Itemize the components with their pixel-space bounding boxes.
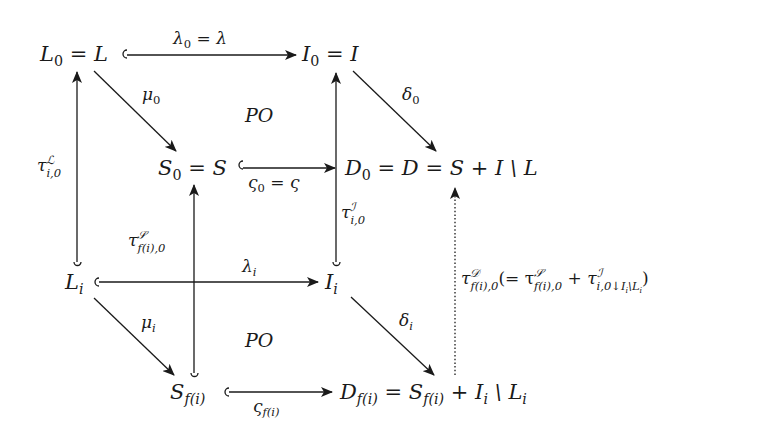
label-tau-S: τ𝒮f(i),0 bbox=[128, 230, 165, 254]
label-tau-D-paren-open: (= τ bbox=[498, 268, 534, 288]
label-tau-D-part3-sub: i,0↓I bbox=[597, 279, 626, 293]
node-L0-rest: = L bbox=[63, 42, 108, 66]
label-tau-D-part2-sub: f(i),0 bbox=[534, 281, 562, 293]
node-D0-rest: = D = S + I \ L bbox=[371, 156, 538, 180]
node-S0: S0 = S bbox=[158, 158, 227, 179]
node-S0-rest: = S bbox=[181, 156, 226, 180]
node-L0-main: L bbox=[40, 42, 54, 66]
node-D0-main: D bbox=[345, 156, 362, 180]
arrow-varsigma0 bbox=[239, 161, 335, 169]
label-tau-D-plus: + τ bbox=[562, 268, 596, 288]
pushout-label-bottom: PO bbox=[245, 331, 273, 350]
label-mui-main: μ bbox=[141, 312, 152, 332]
arrow-tau-L bbox=[74, 72, 81, 266]
label-delta0: δ0 bbox=[402, 86, 420, 103]
pushout-label-top: PO bbox=[245, 106, 273, 125]
node-D0-sub: 0 bbox=[362, 167, 371, 183]
label-tau-D-sub: f(i),0 bbox=[470, 281, 498, 293]
arrow-lambdai bbox=[95, 278, 318, 286]
label-tau-I-main: τ bbox=[341, 202, 350, 222]
label-mui-sub: i bbox=[152, 321, 156, 335]
label-deltai-sub: i bbox=[409, 319, 413, 333]
label-varsigma0-rest: = ς bbox=[265, 172, 300, 192]
label-tau-I-sub: i,0 bbox=[350, 215, 365, 227]
node-Dfi-rest1: = S bbox=[378, 380, 423, 404]
label-tau-L: τℒi,0 bbox=[37, 155, 61, 179]
node-Dfi-main: D bbox=[340, 380, 357, 404]
arrow-mu0 bbox=[94, 71, 176, 151]
arrow-tau-I bbox=[333, 73, 340, 266]
label-lambdai-sub: i bbox=[253, 265, 257, 279]
node-Sfi: Sf(i) bbox=[170, 382, 205, 403]
arrow-mui bbox=[94, 298, 174, 375]
arrow-varsigmafi bbox=[225, 388, 332, 396]
label-lambda0-main: λ bbox=[173, 28, 184, 48]
label-lambdai: λi bbox=[242, 258, 256, 275]
node-I0-sub: 0 bbox=[310, 53, 319, 69]
label-varsigma0: ς0 = ς bbox=[248, 174, 299, 191]
label-tau-L-sup: ℒ bbox=[46, 155, 61, 167]
label-varsigmafi-sub: f(i) bbox=[263, 405, 280, 419]
node-Dfi: Df(i) = Sf(i) + Ii \ Li bbox=[340, 382, 527, 403]
node-Sfi-sub: f(i) bbox=[184, 391, 205, 407]
node-Dfi-sub: f(i) bbox=[357, 391, 378, 407]
label-varsigmafi-main: ς bbox=[253, 396, 263, 416]
label-varsigmafi: ςf(i) bbox=[253, 398, 280, 415]
label-lambda0: λ0 = λ bbox=[173, 30, 227, 47]
label-delta0-main: δ bbox=[402, 84, 412, 104]
node-Dfi-rest1-sub: f(i) bbox=[423, 391, 444, 407]
node-Li-sub: i bbox=[79, 281, 84, 297]
arrow-delta0 bbox=[353, 71, 436, 151]
label-tau-D-paren-close: ) bbox=[642, 268, 649, 288]
arrow-lambda0 bbox=[123, 50, 296, 58]
node-Sfi-main: S bbox=[170, 380, 184, 404]
label-mu0-main: μ bbox=[142, 84, 153, 104]
node-Li: Li bbox=[65, 272, 84, 293]
label-tau-S-sup: 𝒮 bbox=[137, 230, 165, 242]
label-lambdai-main: λ bbox=[242, 256, 253, 276]
label-tau-S-main: τ bbox=[128, 230, 137, 250]
label-mu0-sub: 0 bbox=[153, 93, 160, 107]
node-L0-sub: 0 bbox=[54, 53, 63, 69]
label-tau-L-main: τ bbox=[37, 155, 46, 175]
node-Dfi-rest2: + I bbox=[444, 380, 483, 404]
label-tau-I: τℐi,0 bbox=[341, 202, 365, 226]
label-tau-D-part2-sup: 𝒮 bbox=[534, 268, 562, 280]
node-Ii-sub: i bbox=[333, 281, 338, 297]
label-varsigma0-main: ς bbox=[248, 172, 258, 192]
label-tau-D-sup: 𝒟 bbox=[470, 268, 498, 280]
arrows-layer bbox=[0, 0, 783, 438]
node-I0: I0 = I bbox=[302, 44, 359, 65]
node-I0-rest: = I bbox=[319, 42, 358, 66]
arrow-tau-S bbox=[191, 185, 198, 377]
label-mu0: μ0 bbox=[142, 86, 160, 103]
label-tau-I-sup: ℐ bbox=[350, 202, 365, 214]
label-tau-L-sub: i,0 bbox=[46, 168, 61, 180]
label-delta0-sub: 0 bbox=[412, 93, 419, 107]
label-tau-D-part3-sub-rest: \L bbox=[628, 279, 640, 293]
node-D0: D0 = D = S + I \ L bbox=[345, 158, 538, 179]
label-deltai: δi bbox=[399, 312, 413, 329]
node-Li-main: L bbox=[65, 270, 79, 294]
node-L0: L0 = L bbox=[40, 44, 108, 65]
label-tau-D-part3-sub-rest-i: i bbox=[640, 286, 643, 295]
node-Ii: Ii bbox=[325, 272, 338, 293]
label-tau-D: τ𝒟f(i),0(= τ𝒮f(i),0 + τℐi,0↓Ii\Li) bbox=[461, 268, 649, 292]
node-S0-main: S bbox=[158, 156, 172, 180]
label-lambda0-rest: = λ bbox=[191, 28, 227, 48]
label-mui: μi bbox=[141, 314, 156, 331]
node-Dfi-rest3-sub: i bbox=[522, 391, 527, 407]
label-varsigma0-sub: 0 bbox=[258, 181, 265, 195]
node-Dfi-rest3: \ L bbox=[488, 380, 522, 404]
arrow-deltai bbox=[351, 297, 434, 375]
label-deltai-main: δ bbox=[399, 310, 409, 330]
label-tau-D-main: τ bbox=[461, 268, 470, 288]
label-tau-S-sub: f(i),0 bbox=[137, 243, 165, 255]
